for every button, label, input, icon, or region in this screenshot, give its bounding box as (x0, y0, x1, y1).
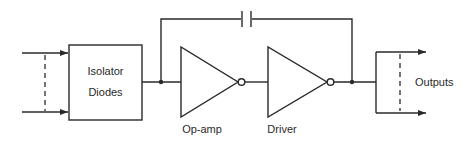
feedback-path (161, 11, 352, 82)
isolator-box (69, 45, 142, 120)
circuit-diagram: Isolator Diodes Op-amp Driver Outputs (0, 0, 469, 143)
opamp-label: Op-amp (182, 123, 222, 135)
diodes-label: Diodes (88, 86, 123, 98)
isolator-diodes-block: Isolator Diodes (69, 45, 142, 120)
driver-label: Driver (267, 123, 297, 135)
input-lines (22, 53, 68, 112)
opamp-symbol: Op-amp (181, 47, 245, 135)
driver-symbol: Driver (267, 47, 333, 135)
driver-triangle (268, 47, 327, 117)
opamp-triangle (181, 47, 238, 117)
feedback-wire-left (161, 19, 241, 82)
outputs-label: Outputs (415, 76, 454, 88)
output-junction-dot (350, 80, 354, 84)
feedback-wire-right (252, 19, 352, 82)
output-lines: Outputs (376, 52, 454, 113)
isolator-label: Isolator (87, 65, 123, 77)
